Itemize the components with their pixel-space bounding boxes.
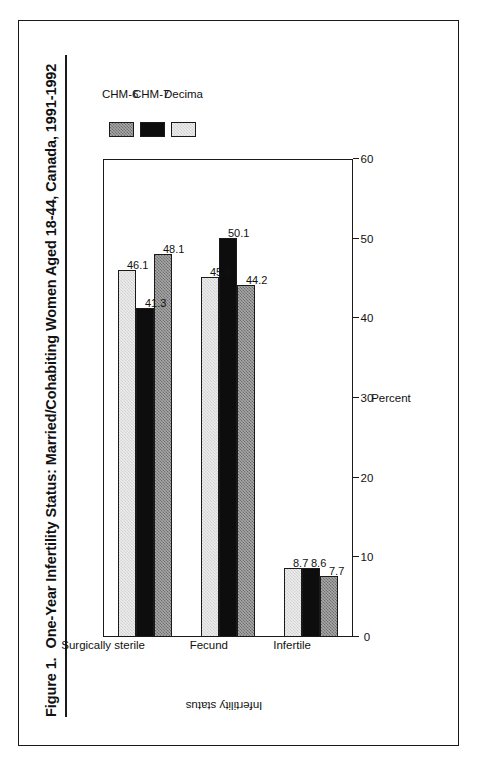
figure-number: Figure 1. — [43, 657, 59, 717]
value-axis-tick-label: 20 — [360, 472, 373, 484]
bar-value-label: 44.2 — [246, 274, 267, 285]
value-axis-tick — [353, 238, 359, 239]
legend: CHM-6CHM-7Decima — [109, 41, 202, 137]
value-axis-tick — [353, 556, 359, 557]
bar-value-label: 50.1 — [228, 227, 249, 238]
legend-swatch-column — [109, 122, 202, 137]
figure-title: Figure 1.One-Year Infertility Status: Ma… — [43, 57, 59, 717]
category-tick-label: Fecund — [189, 639, 227, 651]
bar-value-label: 45.2 — [210, 266, 231, 277]
category-tick-label: Surgically sterile — [60, 639, 144, 651]
legend-swatch — [109, 122, 134, 137]
bar-value-label: 41.3 — [144, 297, 165, 308]
category-tick-label: Infertile — [273, 639, 311, 651]
legend-label-column: CHM-6CHM-7Decima — [109, 75, 202, 114]
page-border: Figure 1.One-Year Infertility Status: Ma… — [18, 20, 459, 746]
value-axis-tick-label: 40 — [360, 312, 373, 324]
figure-title-text: One-Year Infertility Status: Married/Coh… — [43, 64, 59, 649]
value-axis-tick-label: 0 — [363, 631, 369, 643]
legend-swatch — [140, 122, 165, 137]
value-axis-title: Percent — [152, 392, 477, 404]
value-axis-tick — [353, 477, 359, 478]
figure-rotation-stage: Figure 1.One-Year Infertility Status: Ma… — [29, 33, 449, 733]
legend-label: Decima — [164, 82, 203, 107]
bar-value-label: 46.1 — [126, 259, 147, 270]
bar-value-label: 48.1 — [162, 243, 183, 254]
legend-swatch — [171, 122, 196, 137]
title-divider — [65, 55, 67, 717]
value-axis-tick-label: 10 — [360, 551, 373, 563]
value-axis-tick-label: 50 — [360, 233, 373, 245]
value-axis-tick-label: 60 — [360, 153, 373, 165]
value-axis-tick — [353, 158, 359, 159]
value-axis-tick — [353, 317, 359, 318]
value-axis-tick — [353, 636, 359, 637]
category-axis-title-text: Infertility status — [139, 700, 309, 712]
category-axis-title: Infertility status — [103, 483, 353, 733]
